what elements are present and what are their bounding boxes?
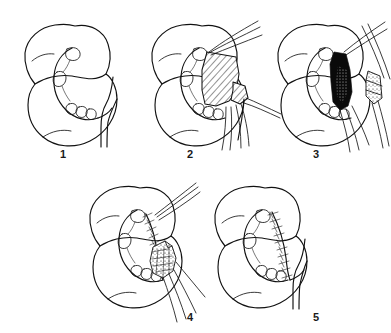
panel-label-3: 3 — [306, 148, 326, 160]
surgical-figure: 1 2 3 4 5 — [0, 0, 391, 333]
panel-step-4-art — [90, 183, 205, 322]
figure-canvas — [0, 0, 391, 333]
panel-label-1: 1 — [53, 148, 73, 160]
panel-label-2: 2 — [180, 148, 200, 160]
panel-step-1-art — [25, 24, 117, 147]
panel-step-3-art — [278, 22, 390, 152]
panel-label-5: 5 — [306, 311, 326, 323]
panel-step-5-art — [215, 186, 307, 309]
panel-step-2-art — [152, 21, 281, 150]
panel-label-4: 4 — [180, 311, 200, 323]
